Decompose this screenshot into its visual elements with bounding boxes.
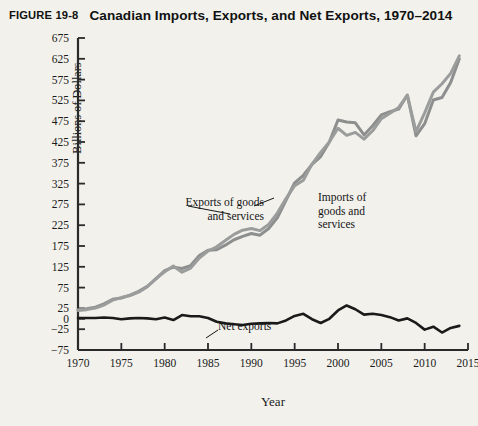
x-tick-label: 2000 (327, 357, 350, 369)
x-tick-label: 1980 (153, 357, 176, 369)
plot-area: Billions of Dollars Year 675625575525475… (78, 38, 468, 368)
y-tick-label: 425 (52, 136, 70, 148)
y-tick-label: 575 (52, 74, 70, 86)
y-tick-label: 675 (52, 32, 70, 44)
figure-container: FIGURE 19-8 Canadian Imports, Exports, a… (0, 0, 478, 426)
y-tick-label: 225 (52, 219, 70, 231)
x-tick-label: 2015 (457, 357, 478, 369)
y-tick-label: 625 (52, 53, 70, 65)
annotation-net-exports: Net exports (218, 320, 302, 334)
series-line (78, 59, 459, 310)
y-tick-label: −75 (51, 344, 69, 356)
line-chart: 6756255755254754253753252752251751257525… (78, 38, 468, 368)
x-tick-label: 2010 (413, 357, 436, 369)
y-tick-label: 325 (52, 178, 70, 190)
y-tick-label: 525 (52, 94, 70, 106)
page-title: Canadian Imports, Exports, and Net Expor… (89, 8, 452, 23)
y-tick-label: 175 (52, 240, 70, 252)
figure-number: FIGURE 19-8 (9, 9, 78, 21)
y-tick-label: 475 (52, 115, 70, 127)
y-tick-label: −25 (51, 323, 69, 335)
x-axis-group: 1970197519801985199019952000200520102015 (67, 343, 478, 369)
x-tick-label: 1985 (197, 357, 220, 369)
x-tick-label: 1995 (283, 357, 306, 369)
x-tick-label: 1975 (110, 357, 133, 369)
annotation-exports: Exports of goods and services (156, 196, 264, 223)
y-tick-label: 75 (58, 282, 70, 294)
x-tick-label: 2005 (370, 357, 393, 369)
x-tick-label: 1970 (67, 357, 90, 369)
y-tick-label: 275 (52, 198, 70, 210)
series-line (78, 56, 459, 311)
x-axis-title: Year (78, 394, 468, 410)
y-tick-label: 125 (52, 261, 70, 273)
y-tick-label: 375 (52, 157, 70, 169)
y-axis-group: 6756255755254754253753252752251751257525… (51, 32, 85, 356)
x-tick-label: 1990 (240, 357, 263, 369)
annotation-imports: Imports of goods and services (318, 191, 392, 232)
leader-line (206, 330, 218, 338)
series-group (78, 56, 459, 333)
figure-header: FIGURE 19-8 Canadian Imports, Exports, a… (9, 4, 472, 26)
